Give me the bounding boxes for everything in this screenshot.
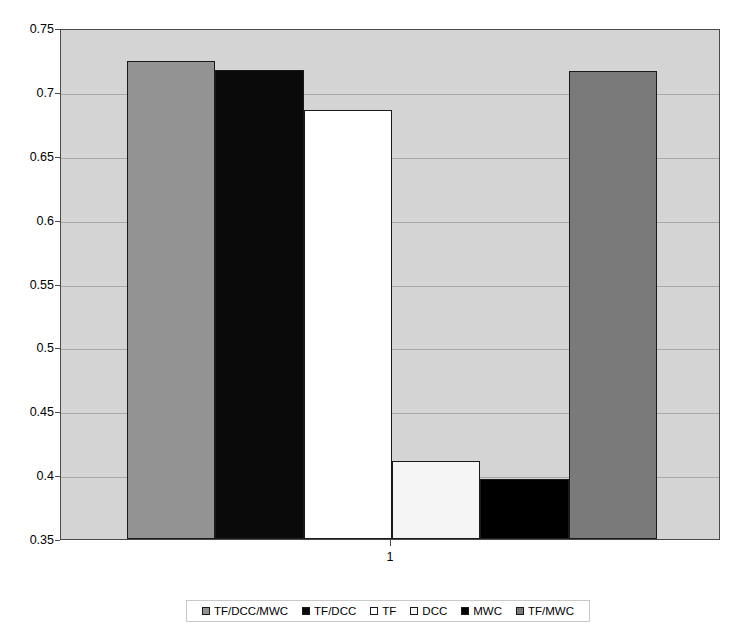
y-axis-tick-label: 0.7	[0, 87, 54, 99]
y-axis: 0.750.70.650.60.550.50.450.40.35	[0, 0, 54, 636]
y-axis-tick-label: 0.35	[0, 534, 54, 546]
legend-item[interactable]: DCC	[410, 606, 447, 617]
legend-swatch-icon	[516, 607, 524, 615]
legend-item[interactable]: MWC	[461, 606, 502, 617]
legend-item-label: MWC	[473, 606, 502, 617]
y-axis-tick-label: 0.6	[0, 215, 54, 227]
legend-item-label: TF/DCC/MWC	[214, 606, 288, 617]
bar-chart: 0.750.70.650.60.550.50.450.40.35 1 TF/DC…	[0, 0, 743, 636]
legend-swatch-icon	[302, 607, 310, 615]
legend-item-label: TF	[382, 606, 396, 617]
legend-swatch-icon	[461, 607, 469, 615]
legend-item[interactable]: TF/DCC	[302, 606, 356, 617]
y-axis-tick-label: 0.65	[0, 151, 54, 163]
legend-item-label: TF/MWC	[528, 606, 574, 617]
bar-tf-dcc-mwc	[127, 61, 215, 539]
y-axis-tick-label: 0.4	[0, 470, 54, 482]
y-axis-tick-label: 0.5	[0, 342, 54, 354]
chart-legend: TF/DCC/MWCTF/DCCTFDCCMWCTF/MWC	[186, 600, 590, 622]
bar-dcc	[392, 461, 480, 539]
bar-tf-mwc	[569, 71, 657, 539]
y-axis-tick-label: 0.55	[0, 279, 54, 291]
legend-swatch-icon	[202, 607, 210, 615]
plot-area	[60, 29, 720, 540]
legend-item-label: TF/DCC	[314, 606, 356, 617]
legend-item-label: DCC	[422, 606, 447, 617]
y-axis-tick-mark	[55, 540, 60, 541]
bar-mwc	[480, 479, 568, 539]
y-axis-tick-label: 0.75	[0, 23, 54, 35]
legend-item[interactable]: TF/MWC	[516, 606, 574, 617]
bars-layer	[61, 30, 719, 539]
bar-tf-dcc	[215, 70, 303, 539]
x-axis-tick-label: 1	[360, 550, 420, 564]
bar-tf	[304, 110, 392, 539]
y-axis-tick-label: 0.45	[0, 406, 54, 418]
legend-item[interactable]: TF/DCC/MWC	[202, 606, 288, 617]
x-axis-tick	[390, 540, 391, 546]
legend-swatch-icon	[370, 607, 378, 615]
legend-item[interactable]: TF	[370, 606, 396, 617]
legend-swatch-icon	[410, 607, 418, 615]
